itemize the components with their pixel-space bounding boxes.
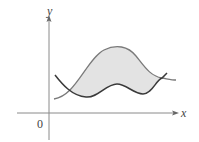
diagram-canvas: y x 0 <box>0 0 199 142</box>
y-axis-label: y <box>46 4 53 18</box>
x-axis-label: x <box>180 106 187 120</box>
area-between-curves-figure: y x 0 <box>0 0 199 142</box>
origin-label: 0 <box>37 117 43 131</box>
